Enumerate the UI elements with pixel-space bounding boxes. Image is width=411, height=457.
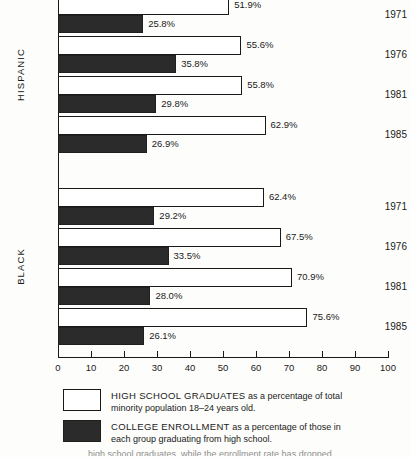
bar-high-school-graduates	[58, 268, 292, 287]
x-axis-tick-mark	[256, 351, 257, 358]
chart-legend: HIGH SCHOOL GRADUATES as a percentage of…	[0, 389, 411, 457]
bar-high-school-graduates	[58, 228, 281, 247]
bar-value-label: 26.9%	[152, 139, 179, 149]
x-axis-tick-label: 50	[218, 362, 229, 373]
year-axis-label: 1971	[357, 201, 411, 212]
bar-college-enrollment	[58, 327, 144, 345]
bar-value-label: 29.8%	[161, 99, 188, 109]
x-axis-tick-label: 0	[55, 362, 60, 373]
bar-high-school-graduates	[58, 188, 264, 207]
bar-value-label: 26.1%	[149, 331, 176, 341]
legend-item: HIGH SCHOOL GRADUATES as a percentage of…	[63, 389, 342, 414]
year-axis-label: 1985	[357, 129, 411, 140]
bar-high-school-graduates	[58, 116, 266, 135]
group-axis-label: BLACK	[15, 207, 26, 327]
group-axis-label: HISPANIC	[15, 15, 26, 135]
legend-swatch-high-school-graduates	[63, 389, 101, 411]
x-axis-tick-label: 90	[350, 362, 361, 373]
x-axis-tick-mark	[322, 351, 323, 358]
x-axis-tick-label: 80	[317, 362, 328, 373]
x-axis-tick-mark	[58, 351, 59, 358]
legend-item-title: COLLEGE ENROLLMENT	[111, 421, 230, 432]
year-axis-label: 1971	[357, 9, 411, 20]
bar-college-enrollment	[58, 95, 156, 113]
bar-value-label: 28.0%	[155, 291, 182, 301]
legend-line-2: minority population 18–24 years old.	[111, 403, 342, 415]
bar-college-enrollment	[58, 15, 143, 33]
bar-value-label: 29.2%	[159, 211, 186, 221]
bar-high-school-graduates	[58, 36, 241, 55]
year-axis-label: 1976	[357, 49, 411, 60]
bar-college-enrollment	[58, 55, 176, 73]
x-axis-tick-mark	[355, 351, 356, 358]
legend-item-text: HIGH SCHOOL GRADUATES as a percentage of…	[111, 389, 342, 414]
bar-value-label: 55.6%	[246, 40, 273, 50]
bar-value-label: 62.4%	[269, 192, 296, 202]
x-axis-tick-label: 60	[251, 362, 262, 373]
legend-item-title: HIGH SCHOOL GRADUATES	[111, 390, 246, 401]
bar-college-enrollment	[58, 287, 150, 305]
x-axis-tick-label: 100	[380, 362, 396, 373]
bar-high-school-graduates	[58, 308, 307, 327]
bar-college-enrollment	[58, 135, 147, 153]
year-axis-label: 1981	[357, 89, 411, 100]
bar-value-label: 70.9%	[297, 272, 324, 282]
x-axis-tick-mark	[289, 351, 290, 358]
legend-swatch-college-enrollment	[63, 420, 101, 442]
bar-value-label: 67.5%	[286, 232, 313, 242]
year-axis-label: 1976	[357, 241, 411, 252]
legend-item-description: as a percentage of those in	[230, 422, 341, 432]
legend-cutoff-text: high school graduates, while the enrollm…	[88, 449, 334, 456]
x-axis-tick-label: 10	[86, 362, 97, 373]
bar-college-enrollment	[58, 207, 154, 225]
bar-college-enrollment	[58, 247, 169, 265]
bar-high-school-graduates	[58, 0, 229, 15]
legend-line-2: each group graduating from high school.	[111, 434, 341, 446]
chart-container: 51.9%25.8%197155.6%35.8%197655.8%29.8%19…	[0, 0, 411, 457]
x-axis-tick-mark	[91, 351, 92, 358]
legend-item: COLLEGE ENROLLMENT as a percentage of th…	[63, 420, 341, 445]
x-axis-tick-label: 70	[284, 362, 295, 373]
x-axis-tick-mark	[388, 351, 389, 358]
bar-value-label: 55.8%	[247, 80, 274, 90]
bar-value-label: 33.5%	[174, 251, 201, 261]
bar-value-label: 62.9%	[271, 120, 298, 130]
legend-item-text: COLLEGE ENROLLMENT as a percentage of th…	[111, 420, 341, 445]
bar-value-label: 35.8%	[181, 59, 208, 69]
legend-item-description: as a percentage of total	[246, 391, 343, 401]
x-axis-tick-mark	[190, 351, 191, 358]
bar-high-school-graduates	[58, 76, 242, 95]
plot-area: 51.9%25.8%197155.6%35.8%197655.8%29.8%19…	[0, 0, 411, 372]
bar-value-label: 25.8%	[148, 19, 175, 29]
legend-line-1: COLLEGE ENROLLMENT as a percentage of th…	[111, 421, 341, 434]
x-axis-tick-label: 30	[152, 362, 163, 373]
x-axis-tick-mark	[124, 351, 125, 358]
bar-value-label: 75.6%	[312, 312, 339, 322]
year-axis-label: 1985	[357, 321, 411, 332]
x-axis-tick-mark	[223, 351, 224, 358]
x-axis-tick-mark	[157, 351, 158, 358]
bar-value-label: 51.9%	[234, 0, 261, 10]
legend-line-1: HIGH SCHOOL GRADUATES as a percentage of…	[111, 390, 342, 403]
x-axis-tick-label: 20	[119, 362, 130, 373]
x-axis-tick-label: 40	[185, 362, 196, 373]
year-axis-label: 1981	[357, 281, 411, 292]
